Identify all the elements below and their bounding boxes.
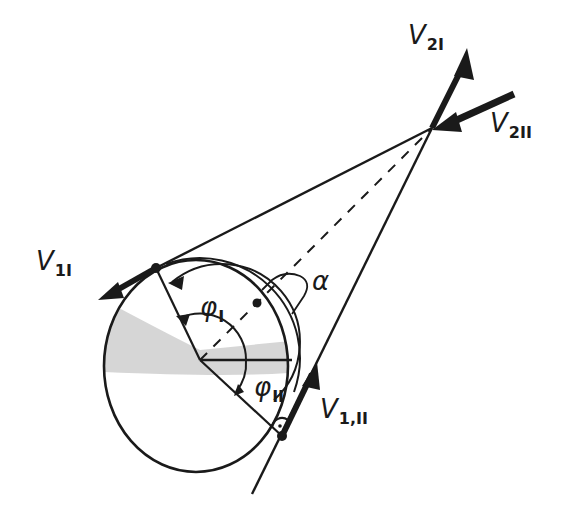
- v1-1-arrowhead: [98, 282, 124, 300]
- right-angle-dot: [278, 424, 282, 428]
- label-phi-1: φI: [200, 294, 224, 325]
- v2-1-arrowhead: [454, 48, 474, 80]
- label-v1-1: V1I: [36, 248, 72, 279]
- label-v1-2: V1,II: [320, 396, 368, 427]
- diagram-canvas: [0, 0, 577, 529]
- v1-2-arrowhead: [302, 362, 320, 390]
- label-phi-2: φII: [254, 374, 284, 405]
- tangent-line-upper: [156, 128, 432, 268]
- bisector-point: [253, 299, 262, 308]
- bisector-dashed-line: [200, 128, 432, 360]
- label-alpha: α: [312, 268, 329, 294]
- phi-2-arrowhead: [234, 384, 244, 396]
- label-v2-2: V2II: [490, 110, 532, 141]
- label-v2-1: V2I: [408, 22, 444, 53]
